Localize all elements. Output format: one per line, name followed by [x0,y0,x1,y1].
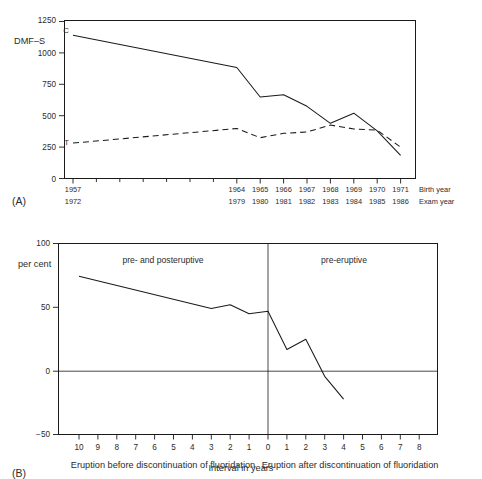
panel-a-ytick-label-0: 0 [51,175,56,184]
panel-a-exam-year-labels: 1972 1979 1980 1981 1982 1983 1984 1985 … [65,197,455,206]
figure-x-axis-title: Interval in years [0,463,482,473]
panel-b-series-line [79,276,344,399]
panel-a-exam-year-axis-caption: Exam year [419,197,455,206]
panel-a-series-c-tag: C [63,26,69,35]
panel-a-series-t-tag: T [64,138,69,147]
panel-b-xlabel-a6: 6 [379,443,384,452]
panel-a-ytick-label-1000: 1000 [38,49,57,58]
panel-b-ytick-label-minus50: −50 [36,430,50,439]
panel-a-birth-year-1964: 1964 [229,185,245,194]
panel-a-svg: DMF–S 0 250 500 750 1000 1250 [0,0,482,215]
panel-b-xlabel-b5: 5 [171,443,176,452]
panel-a-exam-year-1980: 1980 [252,197,268,206]
panel-a-exam-year-1985: 1985 [369,197,385,206]
panel-b-svg: per cent 100 50 0 −50 [0,224,482,479]
panel-a-x-axis-ticks [73,179,401,184]
panel-b-xlabel-b8: 8 [115,443,120,452]
panel-a-birth-year-1970: 1970 [369,185,385,194]
panel-a-exam-year-1984: 1984 [346,197,362,206]
panel-a-series-t-line [73,125,401,147]
panel-b: per cent 100 50 0 −50 [0,224,482,479]
panel-a-exam-year-1983: 1983 [322,197,338,206]
panel-b-xlabel-a4: 4 [341,443,346,452]
panel-b-xlabel-0: 0 [266,443,271,452]
panel-b-xlabel-b3: 3 [209,443,214,452]
panel-a-ytick-label-250: 250 [42,143,56,152]
panel-b-xlabel-b7: 7 [133,443,138,452]
figure-container: DMF–S 0 250 500 750 1000 1250 [0,0,482,479]
panel-b-region-label-pre-post: pre- and posteruptive [122,255,203,265]
panel-a-exam-year-1982: 1982 [299,197,315,206]
panel-a-birth-year-1967: 1967 [299,185,315,194]
panel-a-exam-year-1972: 1972 [65,197,81,206]
panel-b-xlabel-b6: 6 [152,443,157,452]
panel-b-ytick-label-0: 0 [45,367,50,376]
panel-b-xlabel-b2: 2 [228,443,233,452]
panel-b-y-axis-title: per cent [18,259,52,269]
panel-b-region-label-pre: pre-eruptive [321,255,367,265]
panel-b-xlabel-b9: 9 [96,443,101,452]
panel-a: DMF–S 0 250 500 750 1000 1250 [0,0,482,215]
panel-a-birth-year-1966: 1966 [275,185,291,194]
panel-a-exam-year-1981: 1981 [275,197,291,206]
panel-b-xlabel-a5: 5 [360,443,365,452]
panel-b-plot-frame [59,244,438,435]
panel-b-xlabel-a1: 1 [285,443,290,452]
panel-a-birth-year-1965: 1965 [252,185,268,194]
panel-b-x-axis-labels: 10 9 8 7 6 5 4 3 2 1 0 1 2 3 4 5 6 7 8 [74,443,421,452]
panel-a-birth-year-1968: 1968 [322,185,338,194]
panel-a-y-axis-title: DMF–S [14,36,45,46]
panel-a-ytick-label-1250: 1250 [38,16,57,25]
panel-b-xlabel-a3: 3 [322,443,327,452]
panel-b-xlabel-b4: 4 [190,443,195,452]
panel-b-xlabel-a8: 8 [417,443,422,452]
panel-b-ytick-label-100: 100 [36,239,50,248]
panel-a-exam-year-1979: 1979 [229,197,245,206]
panel-b-x-axis-ticks [79,435,419,440]
panel-a-birth-year-1957: 1957 [65,185,81,194]
panel-a-birth-year-1969: 1969 [346,185,362,194]
panel-a-birth-year-axis-caption: Birth year [419,185,451,194]
panel-a-ytick-label-500: 500 [42,112,56,121]
panel-a-series-c-line [73,35,401,155]
panel-b-xlabel-b10: 10 [74,443,84,452]
panel-a-birth-year-1971: 1971 [392,185,408,194]
panel-b-xlabel-a2: 2 [304,443,309,452]
panel-b-ytick-label-50: 50 [41,303,51,312]
panel-a-ytick-label-750: 750 [42,80,56,89]
panel-a-label: (A) [12,195,26,207]
panel-a-birth-year-labels: 1957 1964 1965 1966 1967 1968 1969 1970 … [65,185,451,194]
panel-b-xlabel-a7: 7 [398,443,403,452]
panel-a-exam-year-1986: 1986 [392,197,408,206]
panel-b-xlabel-b1: 1 [247,443,252,452]
